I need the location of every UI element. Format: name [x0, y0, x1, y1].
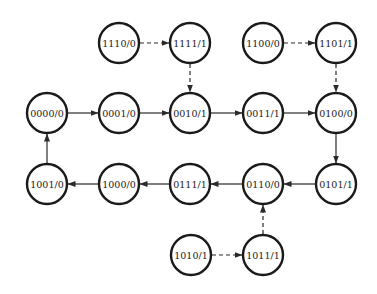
state-label: 0111/1	[173, 179, 206, 190]
state-node-0100: 0100/0	[316, 93, 356, 133]
state-node-1111: 1111/1	[170, 23, 210, 63]
state-nodes: 1110/01111/11100/01101/10000/00001/00010…	[27, 23, 356, 275]
state-node-0101: 0101/1	[316, 164, 356, 204]
state-node-0011: 0011/1	[243, 93, 283, 133]
state-node-0110: 0110/0	[243, 164, 283, 204]
state-node-1001: 1001/0	[27, 164, 67, 204]
state-label: 0001/0	[102, 108, 135, 119]
state-node-0001: 0001/0	[99, 93, 139, 133]
state-label: 1101/1	[319, 38, 352, 49]
state-node-0010: 0010/1	[170, 93, 210, 133]
transition-edges	[47, 43, 336, 255]
state-label: 1011/1	[246, 250, 279, 261]
state-node-1100: 1100/0	[243, 23, 283, 63]
state-node-1000: 1000/0	[99, 164, 139, 204]
state-label: 0110/0	[246, 179, 279, 190]
state-label: 1100/0	[246, 38, 279, 49]
state-label: 1001/0	[30, 179, 63, 190]
state-node-1110: 1110/0	[99, 23, 139, 63]
state-label: 0100/0	[319, 108, 352, 119]
state-label: 1000/0	[102, 179, 135, 190]
state-node-1010: 1010/1	[171, 235, 211, 275]
state-node-0111: 0111/1	[170, 164, 210, 204]
state-label: 1110/0	[102, 38, 135, 49]
state-label: 0010/1	[173, 108, 206, 119]
state-diagram: 1110/01111/11100/01101/10000/00001/00010…	[0, 0, 377, 294]
state-label: 0000/0	[30, 108, 63, 119]
state-label: 0011/1	[246, 108, 279, 119]
state-node-1011: 1011/1	[243, 235, 283, 275]
state-node-0000: 0000/0	[27, 93, 67, 133]
state-label: 0101/1	[319, 179, 352, 190]
state-node-1101: 1101/1	[316, 23, 356, 63]
state-label: 1111/1	[173, 38, 206, 49]
state-label: 1010/1	[174, 250, 207, 261]
